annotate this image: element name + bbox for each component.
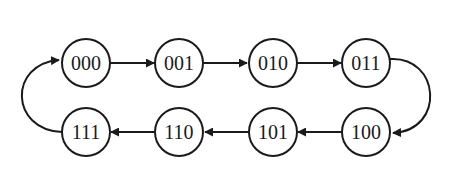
- node-label: 000: [71, 52, 101, 74]
- state-diagram: 000 001 010 011 100 101 110 111: [0, 0, 451, 176]
- state-node-011: 011: [342, 39, 390, 87]
- edge-111-000: [22, 60, 62, 132]
- state-node-101: 101: [249, 108, 297, 156]
- node-label: 011: [351, 52, 380, 74]
- state-node-010: 010: [249, 39, 297, 87]
- state-node-111: 111: [62, 108, 110, 156]
- node-label: 100: [351, 121, 381, 143]
- state-node-100: 100: [342, 108, 390, 156]
- node-label: 001: [164, 52, 194, 74]
- node-label: 111: [72, 121, 101, 143]
- state-node-000: 000: [62, 39, 110, 87]
- node-label: 101: [258, 121, 288, 143]
- node-label: 110: [164, 121, 193, 143]
- node-label: 010: [258, 52, 288, 74]
- state-node-110: 110: [155, 108, 203, 156]
- nodes: 000 001 010 011 100 101 110 111: [62, 39, 390, 156]
- edge-011-100: [390, 59, 430, 133]
- state-node-001: 001: [155, 39, 203, 87]
